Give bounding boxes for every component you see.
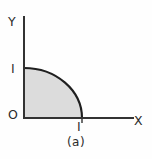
y-axis-tick-label: I [11, 63, 15, 76]
y-axis-label: Y [8, 16, 16, 29]
x-axis-label: X [134, 115, 143, 128]
x-axis-tick-label: I [77, 121, 81, 134]
figure-quarter-circle-diagram: Y I O I X (a) [0, 0, 152, 159]
origin-label: O [8, 109, 18, 122]
figure-caption: (a) [0, 135, 152, 149]
